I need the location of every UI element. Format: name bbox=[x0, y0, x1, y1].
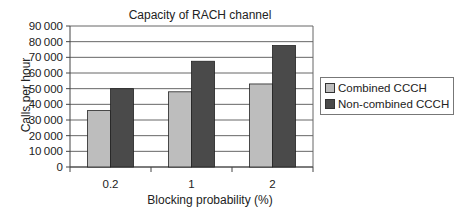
y-tick-label: 0 bbox=[57, 161, 63, 173]
bar bbox=[192, 61, 215, 167]
x-tick-label: 0.2 bbox=[103, 178, 119, 190]
y-tick-label: 20 000 bbox=[29, 130, 63, 142]
legend-label-non-combined: Non-combined CCCH bbox=[338, 96, 449, 112]
bar bbox=[111, 89, 134, 167]
y-tick-label: 60 000 bbox=[29, 67, 63, 79]
bar bbox=[273, 46, 296, 167]
y-tick-label: 80 000 bbox=[29, 36, 63, 48]
legend-item-combined: Combined CCCH bbox=[325, 80, 449, 96]
legend-swatch-non-combined bbox=[325, 99, 335, 109]
x-tick-label: 1 bbox=[188, 178, 194, 190]
legend-swatch-combined bbox=[325, 83, 335, 93]
y-tick-label: 30 000 bbox=[29, 114, 63, 126]
y-tick-label: 90 000 bbox=[29, 20, 63, 32]
legend-item-non-combined: Non-combined CCCH bbox=[325, 96, 449, 112]
legend-label-combined: Combined CCCH bbox=[338, 80, 427, 96]
y-tick-label: 70 000 bbox=[29, 51, 63, 63]
y-tick-label: 40 000 bbox=[29, 98, 63, 110]
legend: Combined CCCH Non-combined CCCH bbox=[320, 77, 454, 115]
bar bbox=[88, 111, 111, 167]
bar bbox=[169, 92, 192, 167]
y-tick-label: 10 000 bbox=[29, 145, 63, 157]
bar bbox=[250, 84, 273, 167]
x-tick-label: 2 bbox=[269, 178, 275, 190]
y-tick-label: 50 000 bbox=[29, 83, 63, 95]
